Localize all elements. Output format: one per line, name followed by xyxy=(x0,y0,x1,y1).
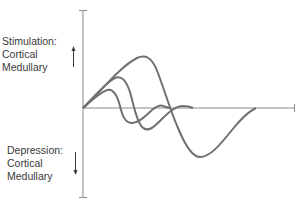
x-axis xyxy=(83,104,295,112)
arrow-up-icon xyxy=(72,46,76,67)
curve-long-response xyxy=(83,56,256,157)
response-diagram xyxy=(0,0,305,210)
arrow-down-icon xyxy=(74,152,78,175)
